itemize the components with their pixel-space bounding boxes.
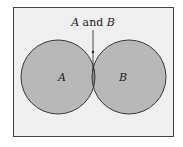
- venn-diagram: A and B A B: [0, 0, 183, 147]
- set-b-label: B: [118, 71, 127, 84]
- set-a-label: A: [57, 71, 66, 84]
- intersection-label: A and B: [70, 16, 115, 29]
- intersection-point: [92, 51, 94, 53]
